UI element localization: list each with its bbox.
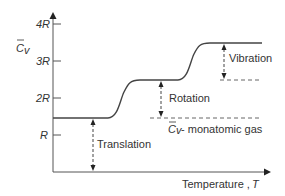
x-axis-label: Temperature , T: [182, 178, 260, 190]
svg-text:- monatomic gas: - monatomic gas: [181, 123, 263, 135]
vibration-arrow-up-icon: [222, 44, 227, 50]
y-axis-arrow-icon: [50, 12, 57, 19]
translation-arrow-up-icon: [91, 119, 96, 125]
svg-text:v: v: [24, 44, 31, 56]
vibration-label: Vibration: [229, 52, 272, 64]
y-axis-label: C v: [16, 40, 31, 56]
rotation-label: Rotation: [169, 92, 210, 104]
svg-text:T: T: [252, 178, 260, 190]
cv-temperature-diagram: 4R 3R 2R R C v Translation Rotation Vibr…: [0, 0, 285, 196]
svg-text:Temperature ,: Temperature ,: [182, 178, 250, 190]
tick-label-2r: 2R: [35, 92, 50, 104]
svg-text:C: C: [168, 123, 176, 135]
tick-label-3r: 3R: [36, 55, 50, 67]
tick-label-4r: 4R: [36, 18, 50, 30]
rotation-arrow-down-icon: [159, 111, 164, 117]
vibration-arrow-down-icon: [222, 73, 227, 79]
monatomic-label: C v - monatomic gas: [168, 122, 263, 136]
rotation-arrow-up-icon: [159, 81, 164, 87]
x-axis-arrow-icon: [264, 169, 271, 176]
translation-arrow-down-icon: [91, 165, 96, 171]
translation-label: Translation: [97, 138, 151, 150]
tick-label-r: R: [40, 129, 48, 141]
svg-text:C: C: [16, 42, 24, 54]
